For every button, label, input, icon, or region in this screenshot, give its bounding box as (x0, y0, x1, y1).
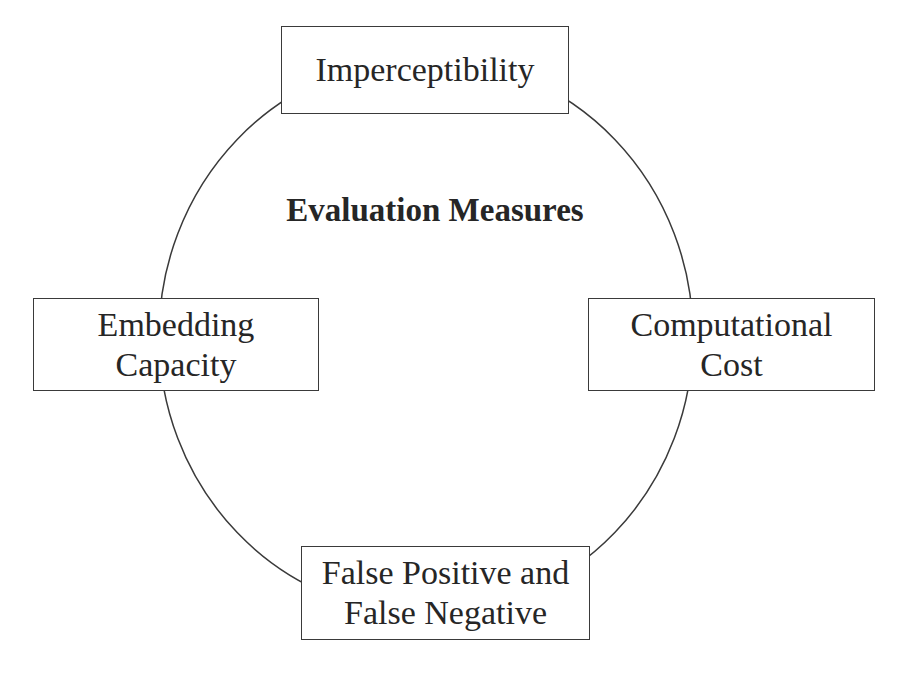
node-label: Cost (700, 345, 762, 385)
node-label: Imperceptibility (315, 50, 534, 90)
node-false-positive-negative: False Positive and False Negative (301, 546, 590, 640)
node-label: Capacity (116, 345, 237, 385)
node-label: False Positive and (322, 553, 569, 593)
center-title: Evaluation Measures (0, 192, 870, 229)
node-embedding-capacity: Embedding Capacity (33, 298, 319, 391)
node-label: False Negative (344, 593, 547, 633)
node-label: Embedding (98, 305, 255, 345)
node-computational-cost: Computational Cost (588, 298, 875, 391)
node-imperceptibility: Imperceptibility (281, 26, 569, 114)
node-label: Computational (630, 305, 832, 345)
